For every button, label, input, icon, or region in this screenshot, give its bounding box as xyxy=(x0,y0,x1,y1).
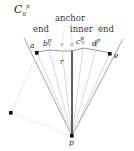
chain-markers xyxy=(48,41,99,48)
annotation-anchor: anchor xyxy=(55,14,85,23)
point-label-b: bp xyxy=(43,38,51,47)
dot-e xyxy=(108,52,112,56)
geometric-figure: C0p anchor end inner end a bp cp dp e r … xyxy=(0,0,134,151)
annotation-inner: inner xyxy=(70,25,93,34)
fan-ray-4 xyxy=(72,48,83,136)
point-label-r: r xyxy=(60,58,64,66)
cone-boundary-left xyxy=(24,38,72,136)
fan-ray-5 xyxy=(72,50,96,136)
annotation-end-left: end xyxy=(33,25,49,34)
point-label-p-base: p xyxy=(69,138,74,147)
point-label-d: dp xyxy=(92,38,100,47)
point-label-c-sup: p xyxy=(80,35,84,41)
point-label-c: cp xyxy=(76,36,84,45)
fan-rays xyxy=(37,48,110,136)
point-label-r-base: r xyxy=(60,57,64,66)
point-label-a: a xyxy=(30,42,34,50)
cone-label-sub: 0 xyxy=(22,11,26,17)
point-label-b-sup: p xyxy=(48,37,52,43)
point-label-d-sup: p xyxy=(97,37,101,43)
dot-lower-left xyxy=(9,111,13,115)
point-label-p: p xyxy=(69,139,74,147)
point-label-e: e xyxy=(114,52,118,60)
fan-ray-6 xyxy=(72,53,110,136)
dot-a xyxy=(35,51,39,55)
chain-polyline xyxy=(37,48,110,53)
cone-label-sup: p xyxy=(26,3,30,9)
marker-inner-1 xyxy=(60,43,64,48)
annotation-end-right: end xyxy=(98,25,114,34)
leader-inner-2 xyxy=(62,30,64,42)
marker-inner-2 xyxy=(70,43,74,48)
point-label-a-base: a xyxy=(30,41,34,50)
point-label-e-base: e xyxy=(114,51,118,60)
cone-label: C0p xyxy=(14,4,29,18)
construction-line-left-upper xyxy=(11,53,37,113)
